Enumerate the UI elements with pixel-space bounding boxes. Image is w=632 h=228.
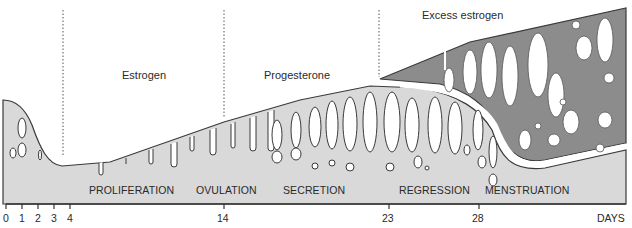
tick-label-0: 0 — [3, 212, 9, 224]
hormone-label-progesterone: Progesterone — [264, 69, 330, 81]
tick-label-14: 14 — [217, 212, 229, 224]
tick-label-2: 2 — [35, 212, 41, 224]
tick-label-3: 3 — [51, 212, 57, 224]
endometrial-cycle-diagram: Estrogen Progesterone Excess estrogen PR… — [0, 0, 632, 228]
phase-label-proliferation: PROLIFERATION — [89, 184, 174, 196]
tick-label-1: 1 — [19, 212, 25, 224]
phase-label-menstruation: MENSTRUATION — [485, 184, 569, 196]
hormone-label-estrogen: Estrogen — [122, 69, 166, 81]
phase-label-regression: REGRESSION — [399, 184, 470, 196]
phase-label-ovulation: OVULATION — [196, 184, 257, 196]
hormone-label-excess-estrogen: Excess estrogen — [422, 9, 503, 21]
axis-unit-label: DAYS — [597, 212, 625, 224]
tick-label-4: 4 — [67, 212, 73, 224]
tick-label-23: 23 — [382, 212, 394, 224]
phase-label-secretion: SECRETION — [283, 184, 345, 196]
tick-label-28: 28 — [472, 212, 484, 224]
